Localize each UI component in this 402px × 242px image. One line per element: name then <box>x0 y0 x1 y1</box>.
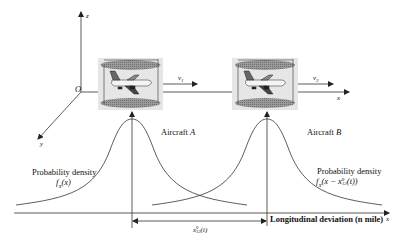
density-formula-b: fX(x − x012(t)) <box>316 177 358 188</box>
y-axis <box>38 92 81 139</box>
x-axis-label-bottom: x <box>386 216 389 223</box>
coordinate-axes <box>38 12 349 139</box>
density-title-a: Probability density <box>32 168 96 177</box>
diagram-canvas <box>0 0 402 242</box>
density-title-b: Probability density <box>317 167 381 176</box>
origin-label: O <box>75 85 81 94</box>
aircraft-b-protection-zone <box>232 58 298 110</box>
density-formula-a: fX(x) <box>56 178 71 189</box>
density-curve-a <box>16 119 247 205</box>
aircraft-separation-diagram: O z y x x v1 v2 Aircraft A Aircraft B Pr… <box>0 0 402 242</box>
separation-label: x012(t) <box>193 226 207 234</box>
velocity-label-b: v2 <box>313 75 319 83</box>
aircraft-a-label: Aircraft A <box>161 128 195 137</box>
longitudinal-axis-label: Longitudinal deviation (n mile) <box>270 215 383 224</box>
velocity-label-a: v1 <box>178 75 184 83</box>
z-axis-label: z <box>86 13 89 20</box>
x-axis-label-top: x <box>337 95 340 102</box>
aircraft-a-protection-zone <box>98 58 163 110</box>
y-axis-label: y <box>40 141 43 148</box>
aircraft-b-label: Aircraft B <box>307 128 341 137</box>
